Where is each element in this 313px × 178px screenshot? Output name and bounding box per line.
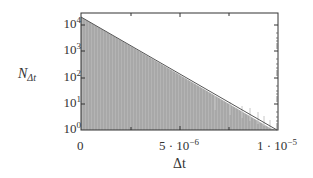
x-tick-label: 1 · 10−5 (257, 138, 297, 154)
x-tick-label: 0 (77, 138, 84, 154)
y-tick-label: 104 (64, 16, 82, 32)
x-axis-label: Δt (173, 156, 186, 172)
y-tick-label: 103 (64, 42, 82, 58)
y-axis-label: NΔt (18, 66, 36, 82)
y-tick-label: 102 (64, 69, 82, 85)
x-tick-label: 5 · 10−6 (159, 138, 199, 154)
y-tick-label: 100 (64, 121, 82, 137)
y-tick-label: 101 (64, 95, 82, 111)
